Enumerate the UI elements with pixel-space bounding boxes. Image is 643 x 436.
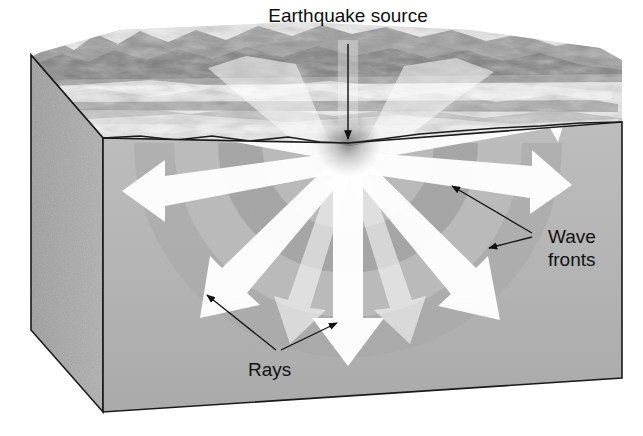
wave-fronts-label-line2: fronts (548, 249, 596, 270)
earthquake-source-label: Earthquake source (268, 5, 428, 26)
earthquake-source-figure: Earthquake source Wave fronts Rays (0, 0, 643, 436)
rays-label: Rays (248, 359, 291, 380)
diagram-canvas: Earthquake source Wave fronts Rays (0, 0, 643, 436)
wave-fronts-label-line1: Wave (548, 226, 596, 247)
